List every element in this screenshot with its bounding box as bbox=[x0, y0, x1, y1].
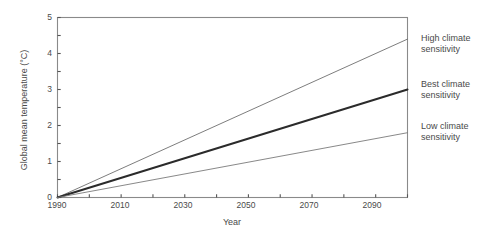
data-lines bbox=[58, 39, 408, 197]
axis-frame bbox=[58, 18, 408, 198]
axis-ticks bbox=[58, 18, 408, 198]
series-line-0 bbox=[58, 39, 408, 197]
series-line-1 bbox=[58, 90, 408, 198]
plot-area bbox=[0, 0, 491, 240]
series-line-2 bbox=[58, 133, 408, 198]
chart-figure: Global mean temperature (°C) 5 4 3 2 1 0… bbox=[0, 0, 491, 240]
